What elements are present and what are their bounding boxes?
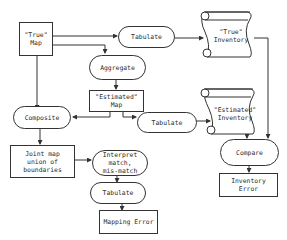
joint-map-node: Joint map union of boundaries bbox=[10, 145, 75, 178]
estimated-map-node: "Estimated" Map bbox=[89, 90, 144, 112]
compare-node: Compare bbox=[220, 139, 279, 166]
true-inventory-node: "True" Inventory bbox=[212, 26, 250, 46]
aggregate-node: Aggregate bbox=[89, 55, 146, 80]
tabulate-bottom-node: Tabulate bbox=[90, 182, 146, 204]
mapping-error-node: Mapping Error bbox=[99, 210, 158, 234]
interpret-node: Interpret match, mis-match bbox=[92, 150, 148, 176]
tabulate-mid-node: Tabulate bbox=[137, 112, 197, 133]
estimated-inventory-node: "Estimated" Inventory bbox=[213, 104, 257, 124]
composite-node: Composite bbox=[13, 106, 71, 129]
true-map-node: "True" Map bbox=[19, 22, 53, 56]
inventory-error-node: Inventory Error bbox=[219, 173, 278, 197]
tabulate-top-node: Tabulate bbox=[118, 26, 175, 48]
